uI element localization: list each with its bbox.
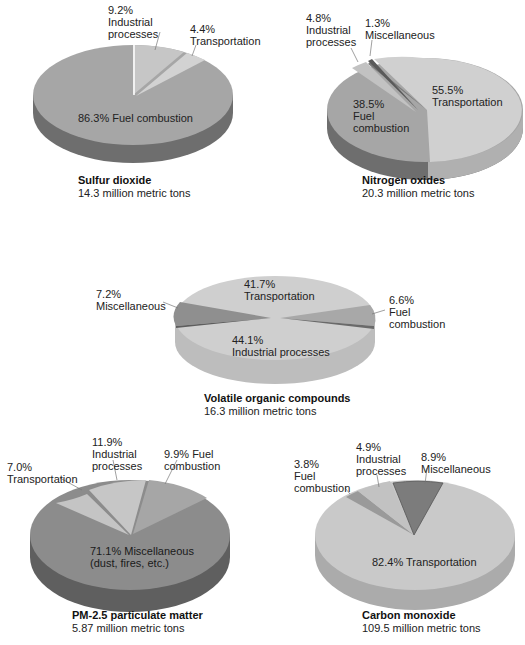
pm-label-misc: 71.1% Miscellaneous (dust, fires, etc.) xyxy=(90,545,194,569)
pm-label-industrial: 11.9% Industrial processes xyxy=(92,436,142,472)
nox-transport-pct: 55.5% xyxy=(432,84,503,96)
voc-industrial-line1: Industrial processes xyxy=(232,346,330,358)
pm-fuel-line1: 9.9% Fuel xyxy=(164,448,220,460)
pm-fuel-line2: combustion xyxy=(164,460,220,472)
so2-title: Sulfur dioxide xyxy=(78,174,151,186)
co-label-transport: 82.4% Transportation xyxy=(372,556,477,568)
so2-subtitle: 14.3 million metric tons xyxy=(78,187,191,199)
so2-label-transport: 4.4% Transportation xyxy=(190,23,261,47)
nox-fuel-line2: combustion xyxy=(353,122,409,134)
voc-misc-line1: Miscellaneous xyxy=(96,300,166,312)
co-subtitle: 109.5 million metric tons xyxy=(362,622,481,634)
co-fuel-line1: Fuel xyxy=(294,470,350,482)
voc-label-industrial: 44.1% Industrial processes xyxy=(232,334,330,358)
co-label-fuel: 3.8% Fuel combustion xyxy=(294,458,350,494)
co-fuel-line2: combustion xyxy=(294,482,350,494)
voc-misc-pct: 7.2% xyxy=(96,288,166,300)
voc-title: Volatile organic compounds xyxy=(204,392,350,404)
so2-label-fuel: 86.3% Fuel combustion xyxy=(78,112,193,124)
nox-title: Nitrogen oxides xyxy=(362,174,445,186)
voc-transport-line1: Transportation xyxy=(244,290,315,302)
pm-industrial-line2: processes xyxy=(92,460,142,472)
co-misc-pct: 8.9% xyxy=(421,451,491,463)
voc-fuel-pct: 6.6% xyxy=(389,294,445,306)
pm-transport-pct: 7.0% xyxy=(7,461,78,473)
pm-transport-line1: Transportation xyxy=(7,473,78,485)
nox-industrial-line1: Industrial xyxy=(306,24,356,36)
voc-fuel-line1: Fuel xyxy=(389,306,445,318)
nox-label-misc: 1.3% Miscellaneous xyxy=(365,17,435,41)
so2-label-industrial: 9.2% Industrial processes xyxy=(108,4,158,40)
nox-transport-line1: Transportation xyxy=(432,96,503,108)
co-label-industrial: 4.9% Industrial processes xyxy=(356,441,406,477)
voc-label-fuel: 6.6% Fuel combustion xyxy=(389,294,445,330)
co-label-misc: 8.9% Miscellaneous xyxy=(421,451,491,475)
so2-pie xyxy=(33,32,233,163)
pm-industrial-line1: Industrial xyxy=(92,448,142,460)
nox-misc-pct: 1.3% xyxy=(365,17,435,29)
co-industrial-line2: processes xyxy=(356,465,406,477)
co-industrial-line1: Industrial xyxy=(356,453,406,465)
nox-label-fuel: 38.5% Fuel combustion xyxy=(353,98,409,134)
co-industrial-pct: 4.9% xyxy=(356,441,406,453)
so2-industrial-line2: processes xyxy=(108,28,158,40)
so2-industrial-line1: Industrial xyxy=(108,16,158,28)
so2-industrial-pct: 9.2% xyxy=(108,4,158,16)
nox-industrial-line2: processes xyxy=(306,36,356,48)
voc-label-transport: 41.7% Transportation xyxy=(244,278,315,302)
nox-subtitle: 20.3 million metric tons xyxy=(362,187,475,199)
voc-industrial-pct: 44.1% xyxy=(232,334,330,346)
nox-label-transport: 55.5% Transportation xyxy=(432,84,503,108)
voc-fuel-line2: combustion xyxy=(389,318,445,330)
co-misc-line1: Miscellaneous xyxy=(421,463,491,475)
so2-transport-line1: Transportation xyxy=(190,35,261,47)
co-fuel-pct: 3.8% xyxy=(294,458,350,470)
pm-label-transport: 7.0% Transportation xyxy=(7,461,78,485)
pm-misc-line2: (dust, fires, etc.) xyxy=(90,557,194,569)
nox-fuel-line1: Fuel xyxy=(353,110,409,122)
nox-misc-line1: Miscellaneous xyxy=(365,29,435,41)
so2-transport-pct: 4.4% xyxy=(190,23,261,35)
voc-label-misc: 7.2% Miscellaneous xyxy=(96,288,166,312)
pm-subtitle: 5.87 million metric tons xyxy=(72,622,185,634)
voc-subtitle: 16.3 million metric tons xyxy=(204,405,317,417)
pm-title: PM-2.5 particulate matter xyxy=(72,609,203,621)
nox-industrial-pct: 4.8% xyxy=(306,12,356,24)
co-title: Carbon monoxide xyxy=(362,609,456,621)
pm-misc-line1: 71.1% Miscellaneous xyxy=(90,545,194,557)
nox-label-industrial: 4.8% Industrial processes xyxy=(306,12,356,48)
pm-label-fuel: 9.9% Fuel combustion xyxy=(164,448,220,472)
pm-industrial-pct: 11.9% xyxy=(92,436,142,448)
nox-fuel-pct: 38.5% xyxy=(353,98,409,110)
voc-transport-pct: 41.7% xyxy=(244,278,315,290)
